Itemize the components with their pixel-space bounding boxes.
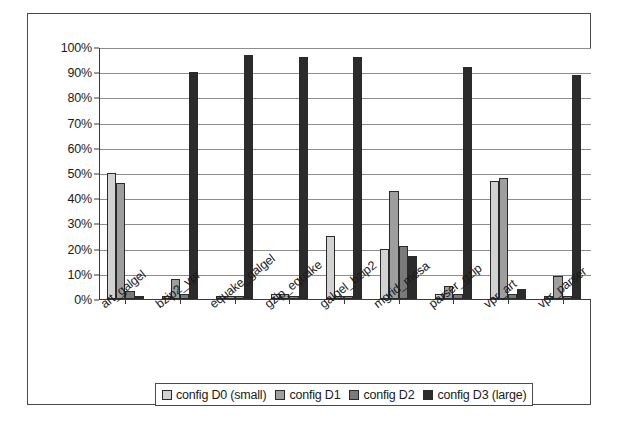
legend-label: config D0 (small) (176, 388, 266, 402)
y-axis: 0%10%20%30%40%50%60%70%80%90%100% (55, 48, 99, 300)
bar-group (216, 48, 253, 299)
y-tick-label: 40% (68, 192, 92, 206)
y-tick-label: 20% (68, 243, 92, 257)
bar (135, 296, 144, 299)
y-tick-label: 10% (68, 268, 92, 282)
bar-group (544, 48, 581, 299)
legend-item: config D1 (275, 388, 340, 402)
bar-group (326, 48, 363, 299)
y-tick-label: 30% (68, 217, 92, 231)
legend-swatch-icon (423, 390, 433, 400)
legend-label: config D1 (289, 388, 340, 402)
legend-label: config D2 (363, 388, 414, 402)
bar-group (490, 48, 527, 299)
bar-group (162, 48, 199, 299)
y-tick-label: 70% (68, 117, 92, 131)
y-tick-label: 60% (68, 142, 92, 156)
legend-swatch-icon (275, 390, 285, 400)
bar (289, 296, 298, 299)
legend-item: config D2 (349, 388, 414, 402)
y-tick-label: 0% (74, 293, 92, 307)
bar (244, 55, 253, 299)
bar (107, 173, 116, 299)
y-tick-label: 80% (68, 91, 92, 105)
bar-group (107, 48, 144, 299)
bar (517, 289, 526, 299)
bar (490, 181, 499, 299)
legend-label: config D3 (large) (437, 388, 526, 402)
chart-frame: 0%10%20%30%40%50%60%70%80%90%100% art_ga… (27, 13, 591, 405)
chart-legend: config D0 (small)config D1config D2confi… (155, 383, 533, 406)
legend-swatch-icon (349, 390, 359, 400)
y-tick-label: 50% (68, 167, 92, 181)
y-tick-label: 90% (68, 66, 92, 80)
bar (344, 296, 353, 299)
bar-group (435, 48, 472, 299)
bar (299, 57, 308, 299)
legend-item: config D3 (large) (423, 388, 526, 402)
bar (563, 296, 572, 299)
plot-area (99, 48, 591, 300)
bar (353, 57, 362, 299)
y-tick-label: 100% (61, 41, 92, 55)
x-axis-labels: art_galgelbzip2_vprequake_galgelgzip_equ… (99, 300, 591, 376)
bar-group (380, 48, 417, 299)
bar (189, 72, 198, 299)
legend-item: config D0 (small) (162, 388, 266, 402)
bar (235, 296, 244, 299)
legend-swatch-icon (162, 390, 172, 400)
